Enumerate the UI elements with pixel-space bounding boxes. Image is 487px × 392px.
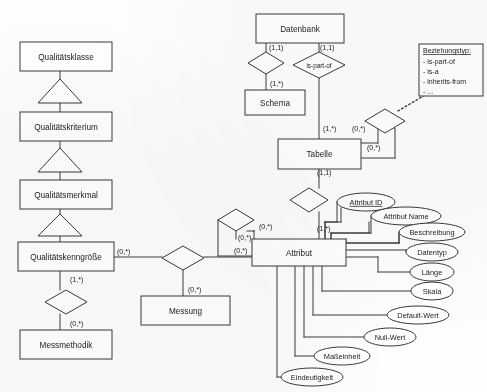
cardinality-card-attribut-self-b: (0,*): [238, 234, 251, 242]
cardinality-card-messung: (0,*): [188, 286, 201, 294]
relationship-rel-kenngroesse-methodik: [45, 290, 87, 314]
attribute-label-attr-default-wert: Default-Wert: [397, 311, 438, 320]
relationship-rel-tabelle-attribut: [290, 188, 328, 212]
cardinality-card-db-is-part-of: (1,1): [320, 44, 334, 52]
attribute-label-attr-attribut-name: Attribut Name: [383, 212, 428, 221]
cardinality-card-attribut-left: (0,*): [234, 247, 247, 255]
entity-label-qualitaetskenngroesse: Qualitätskenngröße: [30, 253, 102, 262]
legend-item-0: - is-part-of: [423, 58, 455, 66]
entity-label-qualitaetsmerkmal: Qualitätsmerkmal: [34, 191, 98, 200]
relationship-label-rel-is-part-of: is-part-of: [306, 62, 331, 70]
relationship-rel-attribut-self: [218, 209, 254, 231]
legend-item-3: - ...: [423, 88, 433, 95]
cardinality-card-tabelle-self-a: (0,*): [352, 125, 365, 133]
attribute-label-attr-laenge: Länge: [422, 268, 443, 277]
relationship-rel-tabelle-self: [365, 109, 405, 133]
cardinality-card-attribut-top: (1,*): [317, 225, 330, 233]
entity-label-schema: Schema: [260, 99, 290, 108]
attribute-label-attr-attribut-id: Attribut ID: [350, 198, 383, 207]
legend-item-1: - is-a: [423, 68, 439, 75]
cardinality-card-tabelle-top: (1,*): [323, 125, 336, 133]
attribute-label-attr-masseinheit: Maßeinheit: [324, 352, 361, 361]
attribute-label-attr-beschreibung: Beschreibung: [409, 228, 454, 237]
cardinality-card-schema: (1,*): [270, 80, 283, 88]
attribute-label-attr-null-wert: Null-Wert: [375, 333, 406, 342]
generalization-triangle-gen-merkmal-kenngroesse: [38, 214, 82, 236]
generalization-triangle-gen-klasse-kriterium: [38, 79, 82, 103]
cardinality-card-db-schema: (1,1): [269, 44, 283, 52]
entity-label-attribut: Attribut: [286, 249, 313, 258]
cardinality-card-tabelle-attribut: (1,1): [317, 169, 331, 177]
entity-label-messung: Messung: [169, 307, 203, 316]
entity-label-qualitaetskriterium: Qualitätskriterium: [34, 123, 98, 132]
cardinality-card-tabelle-self-b: (0,*): [367, 144, 380, 152]
diagram-svg: QualitätsklasseQualitätskriteriumQualitä…: [0, 0, 487, 392]
entity-label-messmethodik: Messmethodik: [40, 341, 94, 350]
cardinality-card-kenngroesse-bot: (1,*): [70, 276, 83, 284]
entity-label-datenbank: Datenbank: [280, 25, 321, 34]
attribute-label-attr-skala: Skala: [423, 287, 442, 296]
attribute-label-attr-eindeutigkeit: Eindeutigkeit: [291, 373, 333, 382]
generalization-triangle-gen-kriterium-merkmal: [38, 148, 82, 172]
legend-pointer-dotted: [398, 95, 425, 111]
cardinality-card-attribut-self-a: (0,*): [259, 223, 272, 231]
cardinality-card-messmethodik: (0,*): [70, 320, 83, 328]
relationship-rel-kenngroesse-messung: [162, 246, 204, 270]
entity-label-tabelle: Tabelle: [307, 150, 333, 159]
attribute-label-attr-datentyp: Datentyp: [417, 248, 447, 257]
er-diagram-canvas: QualitätsklasseQualitätskriteriumQualitä…: [0, 0, 487, 392]
cardinality-card-kenngroesse-right: (0,*): [117, 248, 130, 256]
relationship-rel-datenbank-schema: [248, 52, 284, 74]
entity-label-qualitaetsklasse: Qualitätsklasse: [38, 53, 94, 62]
legend-title: Beziehungstyp:: [423, 47, 471, 55]
legend-item-2: - inherits-from: [423, 78, 466, 85]
